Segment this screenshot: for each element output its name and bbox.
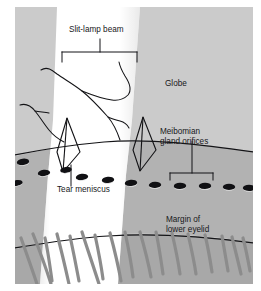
slit-lamp-figure: Slit-lamp beam Globe Meibomian gland ori… xyxy=(0,0,261,291)
label-margin-line2: lower eyelid xyxy=(166,225,210,234)
label-meibomian-line1: Meibomian xyxy=(160,127,200,136)
label-globe: Globe xyxy=(165,79,187,88)
label-slit-lamp-beam: Slit-lamp beam xyxy=(69,25,124,34)
label-margin-line1: Margin of xyxy=(166,215,201,224)
figure-canvas: Slit-lamp beam Globe Meibomian gland ori… xyxy=(0,0,261,291)
illustration-body: Slit-lamp beam Globe Meibomian gland ori… xyxy=(11,7,255,284)
label-meibomian-line2: gland orifices xyxy=(160,137,208,146)
label-tear-meniscus: Tear meniscus xyxy=(57,185,110,194)
